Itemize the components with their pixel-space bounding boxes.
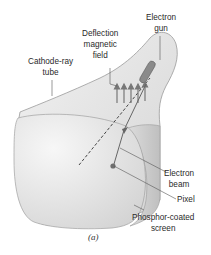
- label-line: tube: [28, 67, 73, 78]
- figure-caption: (a): [88, 232, 99, 242]
- label-pixel: Pixel: [177, 194, 195, 205]
- label-line: Phosphor-coated: [132, 212, 194, 223]
- label-deflection-field: Deflection magnetic field: [82, 28, 118, 61]
- phosphor-screen: [14, 114, 145, 229]
- label-line: beam: [164, 179, 194, 190]
- label-crt: Cathode-ray tube: [28, 56, 73, 78]
- label-screen: Phosphor-coated screen: [132, 212, 194, 234]
- label-electron-gun: Electron gun: [146, 12, 176, 34]
- label-electron-beam: Electron beam: [164, 168, 194, 190]
- label-line: field: [82, 50, 118, 61]
- label-line: Electron: [164, 168, 194, 179]
- pixel-dot: [110, 163, 115, 168]
- label-line: screen: [132, 223, 194, 234]
- label-line: Electron: [146, 12, 176, 23]
- label-line: Pixel: [177, 194, 195, 205]
- label-line: Cathode-ray: [28, 56, 73, 67]
- label-line: Deflection: [82, 28, 118, 39]
- label-line: gun: [146, 23, 176, 34]
- label-line: magnetic: [82, 39, 118, 50]
